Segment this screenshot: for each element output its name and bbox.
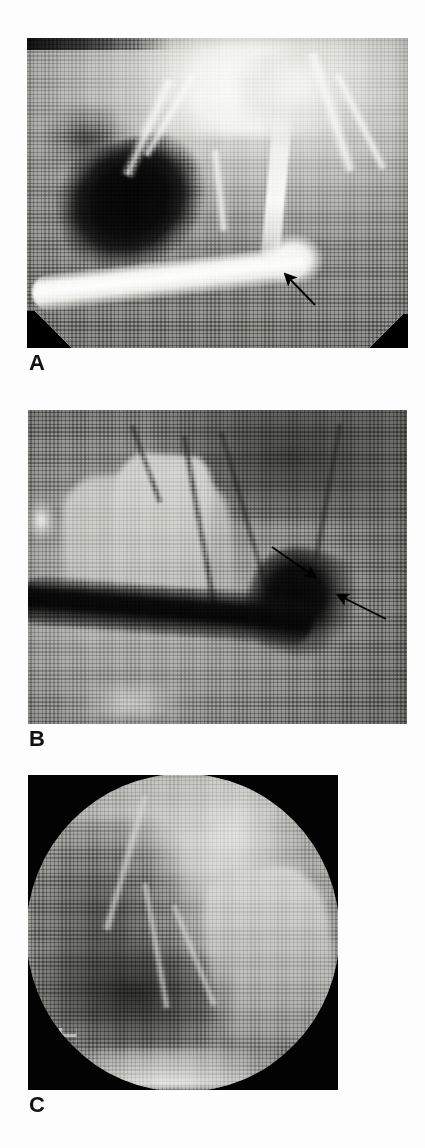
- panel-a-corner-mask-bottom-right: [355, 314, 408, 348]
- panel-b-bright-left-spot: [28, 498, 58, 542]
- panel-c-image: [28, 775, 338, 1090]
- panel-b-radiograph: [28, 410, 407, 724]
- panel-c-circular-field: [28, 775, 338, 1090]
- panel-c-radiograph: [28, 775, 338, 1090]
- panel-c-display-marks: [48, 1028, 76, 1044]
- panel-a-image: [27, 38, 408, 348]
- panel-c-label: C: [29, 1094, 45, 1116]
- panel-b-label: B: [29, 728, 45, 750]
- panel-b-lower-bright-region: [66, 680, 195, 724]
- panel-a-radiograph: [27, 38, 408, 348]
- figure-plate: A: [0, 0, 425, 1148]
- panel-a-corner-mask-bottom-left: [27, 311, 88, 348]
- panel-b-image: [28, 410, 407, 724]
- panel-a-label: A: [29, 352, 45, 374]
- panel-c-bright-inferior-margin: [45, 1047, 295, 1088]
